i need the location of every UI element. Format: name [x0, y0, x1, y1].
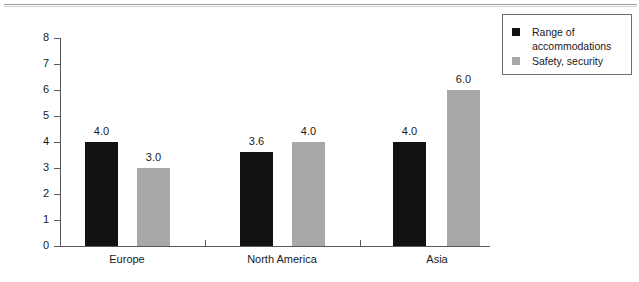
y-tick-label-5: 5 — [43, 109, 49, 122]
y-tick-label-1: 1 — [43, 213, 49, 226]
bar-north-america-safety-security: 4.0 — [292, 142, 325, 246]
y-tick-8: 8 — [54, 38, 61, 39]
category-label-asia: Asia — [426, 252, 447, 266]
y-tick-label-7: 7 — [43, 57, 49, 70]
y-tick-label-4: 4 — [43, 135, 49, 148]
chart-screenshot: 8 7 6 5 4 3 2 1 — [0, 0, 639, 282]
bar-asia-range-of-accommodations: 4.0 — [393, 142, 426, 246]
y-tick-label-8: 8 — [43, 31, 49, 44]
bar-value-northamerica-light: 4.0 — [301, 125, 316, 138]
y-tick-6: 6 — [54, 90, 61, 91]
legend-entry-range-of-accommodations: Range of accommodations — [512, 25, 620, 53]
bar-value-northamerica-dark: 3.6 — [249, 135, 264, 148]
y-tick-label-2: 2 — [43, 187, 49, 200]
legend-swatch-dark-icon — [512, 28, 520, 36]
bar-value-asia-light: 6.0 — [456, 73, 471, 86]
legend-entry-safety-security: Safety, security — [512, 54, 603, 68]
y-tick-5: 5 — [54, 116, 61, 117]
bar-asia-safety-security: 6.0 — [447, 90, 480, 246]
bar-europe-safety-security: 3.0 — [137, 168, 170, 246]
bar-value-europe-dark: 4.0 — [94, 125, 109, 138]
category-label-north-america: North America — [247, 252, 317, 266]
y-tick-0: 0 — [54, 246, 61, 247]
bar-europe-range-of-accommodations: 4.0 — [85, 142, 118, 246]
legend-swatch-light-icon — [512, 57, 520, 65]
y-tick-label-3: 3 — [43, 161, 49, 174]
bar-value-asia-dark: 4.0 — [402, 125, 417, 138]
bar-north-america-range-of-accommodations: 3.6 — [240, 152, 273, 246]
y-tick-1: 1 — [54, 220, 61, 221]
bar-value-europe-light: 3.0 — [146, 151, 161, 164]
y-tick-label-0: 0 — [43, 239, 49, 252]
group-separator-tick-2 — [360, 240, 361, 247]
y-tick-3: 3 — [54, 168, 61, 169]
group-separator-tick-1 — [205, 240, 206, 247]
y-tick-2: 2 — [54, 194, 61, 195]
y-tick-label-6: 6 — [43, 83, 49, 96]
legend-label-range-of-accommodations: Range of accommodations — [532, 25, 620, 53]
y-tick-4: 4 — [54, 142, 61, 143]
x-axis-baseline — [60, 246, 490, 247]
y-tick-7: 7 — [54, 64, 61, 65]
category-label-europe: Europe — [109, 252, 144, 266]
chart-legend: Range of accommodations Safety, security — [502, 14, 632, 75]
legend-label-safety-security: Safety, security — [532, 54, 603, 68]
